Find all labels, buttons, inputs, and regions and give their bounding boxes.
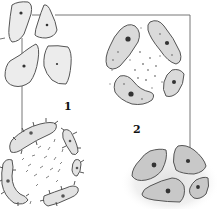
figure-label-1: 1 [64, 101, 72, 112]
cell [9, 2, 32, 42]
nucleus-icon [165, 41, 169, 45]
cell [2, 160, 28, 205]
nucleus-icon [46, 24, 49, 27]
pointer-tick-left [0, 38, 5, 39]
nucleus-icon [61, 194, 65, 198]
nucleus-icon [6, 179, 10, 183]
nucleus-icon [69, 140, 72, 143]
nucleus-icon [128, 91, 133, 96]
nucleus-icon [186, 159, 190, 163]
nucleus-icon [166, 189, 171, 194]
cell [148, 21, 181, 64]
cell [114, 76, 153, 105]
polygonal-cells-cluster [5, 2, 71, 87]
nucleus-icon [76, 167, 79, 170]
cell [106, 25, 139, 69]
figure-label-2: 2 [133, 124, 141, 135]
nucleus-icon [172, 80, 176, 84]
nucleus-icon [22, 64, 25, 67]
nucleus-icon [125, 36, 130, 41]
diagram-canvas [0, 0, 217, 209]
ring-cluster-elongated-cells [106, 21, 184, 105]
nucleus-icon [19, 11, 22, 14]
nucleus-icon [152, 163, 157, 168]
ring-cluster-spiked-cells [0, 118, 84, 206]
grouped-dense-cells [120, 146, 217, 210]
cell [44, 186, 79, 206]
cell [35, 5, 57, 38]
nucleus-icon [29, 131, 33, 135]
nucleus-icon [196, 185, 200, 189]
nucleus-icon [56, 63, 58, 65]
